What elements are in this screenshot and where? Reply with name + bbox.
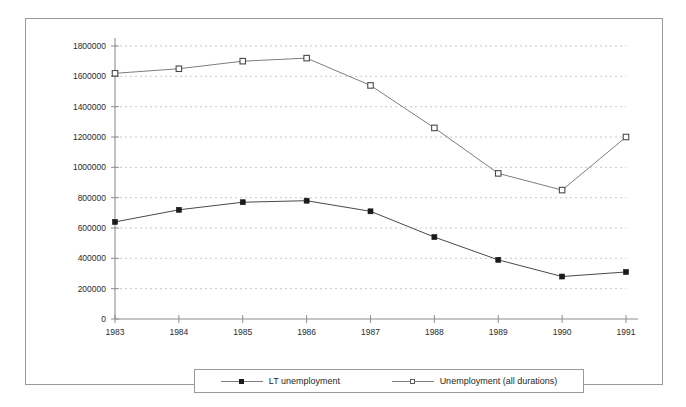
x-axis-ticks-group: 198319841985198619871988198919901991	[106, 315, 636, 337]
legend-item-unemployment-all-durations: Unemployment (all durations)	[392, 376, 558, 386]
x-axis-tick-label: 1984	[169, 327, 188, 337]
data-point-marker	[304, 198, 309, 203]
chart-legend: LT unemployment Unemployment (all durati…	[194, 369, 584, 393]
line-chart-plot: 0200000400000600000800000100000012000001…	[26, 19, 662, 384]
x-axis-tick-label: 1987	[361, 327, 380, 337]
data-point-marker	[560, 274, 565, 279]
legend-item-lt-unemployment: LT unemployment	[221, 376, 340, 386]
x-axis-tick-label: 1990	[553, 327, 572, 337]
legend-label: Unemployment (all durations)	[440, 376, 558, 386]
data-point-marker	[240, 58, 246, 64]
data-point-marker	[368, 209, 373, 214]
data-point-marker	[432, 125, 438, 130]
x-axis-tick-label: 1991	[617, 327, 636, 337]
x-axis-tick-label: 1983	[106, 327, 125, 337]
y-axis-ticks-group: 0200000400000600000800000100000012000001…	[73, 41, 119, 324]
y-axis-tick-label: 0	[101, 314, 106, 324]
y-axis-tick-label: 600000	[78, 223, 107, 233]
data-point-marker	[176, 66, 182, 72]
data-point-marker	[496, 257, 501, 262]
y-axis-tick-label: 1400000	[73, 102, 106, 112]
series-line	[115, 58, 626, 190]
data-point-marker	[112, 71, 118, 77]
legend-label: LT unemployment	[269, 376, 340, 386]
x-axis-tick-label: 1985	[233, 327, 252, 337]
data-point-marker	[623, 134, 629, 140]
data-point-marker	[496, 171, 502, 177]
y-axis-tick-label: 200000	[78, 284, 107, 294]
data-point-marker	[304, 55, 310, 61]
data-point-marker	[368, 83, 374, 89]
data-point-marker	[176, 207, 181, 212]
legend-marker-filled-square-icon	[221, 377, 263, 386]
x-axis-tick-label: 1986	[297, 327, 316, 337]
y-axis-tick-label: 1000000	[73, 162, 106, 172]
y-axis-tick-label: 800000	[78, 193, 107, 203]
data-point-marker	[624, 269, 629, 274]
x-axis-tick-label: 1989	[489, 327, 508, 337]
x-axis-tick-label: 1988	[425, 327, 444, 337]
y-axis-tick-label: 1200000	[73, 132, 106, 142]
y-axis-tick-label: 1800000	[73, 41, 106, 51]
data-point-marker	[559, 187, 565, 193]
data-point-marker	[432, 235, 437, 240]
y-axis-tick-label: 400000	[78, 253, 107, 263]
chart-container: 0200000400000600000800000100000012000001…	[25, 18, 663, 385]
data-point-marker	[240, 200, 245, 205]
data-point-marker	[113, 219, 118, 224]
y-axis-tick-label: 1600000	[73, 71, 106, 81]
legend-marker-open-square-icon	[392, 377, 434, 386]
